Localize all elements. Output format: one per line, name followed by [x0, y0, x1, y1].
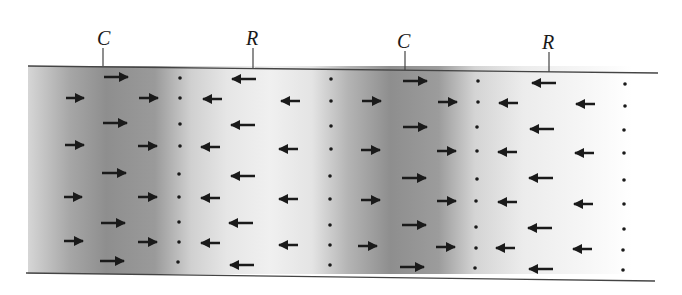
- svg-text:R: R: [245, 27, 258, 49]
- particle-dot: [622, 227, 626, 231]
- particle-dot: [328, 174, 332, 178]
- svg-text:R: R: [541, 31, 554, 53]
- particle-dot: [329, 99, 333, 103]
- svg-text:C: C: [397, 30, 411, 52]
- label-rarefaction-2: R: [541, 31, 554, 72]
- particle-dot: [329, 77, 333, 81]
- particle-dot: [473, 266, 477, 270]
- particle-dot: [623, 82, 627, 86]
- particle-dot: [474, 199, 478, 203]
- particle-dot: [476, 100, 480, 104]
- particle-dot: [328, 263, 332, 267]
- label-rarefaction-1: R: [245, 27, 258, 68]
- particle-dot: [475, 177, 479, 181]
- particle-dot: [176, 260, 180, 264]
- particle-dot: [622, 128, 626, 132]
- medium-band: [28, 66, 632, 274]
- particle-dot: [177, 195, 181, 199]
- label-compression-2: C: [397, 30, 411, 70]
- svg-text:C: C: [97, 27, 111, 49]
- particle-dot: [476, 79, 480, 83]
- wave-diagram: C R C R: [0, 0, 682, 295]
- particle-dot: [178, 144, 182, 148]
- particle-dot: [623, 104, 627, 108]
- particle-dot: [328, 223, 332, 227]
- particle-dot: [329, 124, 333, 128]
- particle-dot: [328, 243, 332, 247]
- particle-dot: [474, 246, 478, 250]
- particle-dot: [329, 147, 333, 151]
- particle-dot: [475, 149, 479, 153]
- particle-dot: [474, 225, 478, 229]
- bottom-boundary: [26, 273, 655, 281]
- particle-dot: [177, 220, 181, 224]
- particle-dot: [178, 76, 182, 80]
- particle-dot: [178, 122, 182, 126]
- particle-dot: [621, 248, 625, 252]
- particle-dot: [622, 178, 626, 182]
- label-compression-1: C: [97, 27, 111, 66]
- particle-dot: [475, 125, 479, 129]
- particle-dot: [621, 268, 625, 272]
- particle-dot: [177, 240, 181, 244]
- particle-dot: [328, 197, 332, 201]
- particle-dot: [178, 96, 182, 100]
- particle-dot: [622, 151, 626, 155]
- particle-dot: [177, 172, 181, 176]
- particle-dot: [622, 202, 626, 206]
